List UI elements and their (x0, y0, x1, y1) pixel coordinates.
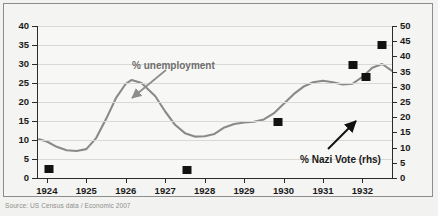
y-axis-label-left: 30 (18, 59, 29, 69)
x-axis-label: 1927 (155, 186, 176, 196)
y-axis-label-right: 0 (400, 173, 405, 183)
x-axis-label: 1926 (115, 186, 136, 196)
x-axis-label: 1924 (36, 186, 57, 196)
nazi-vote-arrow-icon (304, 117, 364, 157)
y-axis-label-right: 25 (400, 97, 411, 107)
y-axis-label-right: 20 (400, 112, 411, 122)
y-axis-label-left: 5 (24, 154, 29, 164)
x-axis-label: 1928 (194, 186, 215, 196)
y-axis-label-right: 30 (400, 82, 411, 92)
gridline (37, 102, 392, 103)
x-axis-label: 1930 (273, 186, 294, 196)
nazi-vote-marker (348, 61, 357, 69)
y-axis-tick-right (392, 178, 397, 179)
gridline (37, 83, 392, 84)
y-axis-label-left: 40 (18, 21, 29, 31)
y-axis-label-right: 35 (400, 67, 411, 77)
y-axis-label-right: 15 (400, 127, 411, 137)
x-axis-spine (37, 178, 392, 179)
y-axis-label-right: 50 (400, 21, 411, 31)
y-axis-label-left: 20 (18, 97, 29, 107)
nazi-vote-marker (273, 118, 282, 126)
y-axis-right-spine (392, 26, 393, 178)
x-axis-label: 1931 (312, 186, 333, 196)
chart-figure: 0510152025303540051015202530354045501924… (0, 0, 438, 216)
y-axis-label-left: 10 (18, 135, 29, 145)
y-axis-label-right: 10 (400, 143, 411, 153)
source-note: Source: US Census data / Economic 2007 (5, 202, 131, 209)
y-axis-label-left: 25 (18, 78, 29, 88)
y-axis-label-right: 45 (400, 36, 411, 46)
y-axis-label-left: 0 (24, 173, 29, 183)
y-axis-label-left: 35 (18, 40, 29, 50)
y-axis-label-left: 15 (18, 116, 29, 126)
gridline (37, 45, 392, 46)
x-axis-label: 1932 (352, 186, 373, 196)
nazi-vote-marker (44, 165, 53, 173)
y-axis-left-spine (37, 26, 38, 178)
y-axis-label-right: 5 (400, 158, 405, 168)
chart-frame: 0510152025303540051015202530354045501924… (3, 3, 433, 197)
x-axis-label: 1929 (234, 186, 255, 196)
y-axis-label-right: 40 (400, 51, 411, 61)
gridline (37, 26, 392, 27)
unemployment-arrow-icon (122, 68, 182, 112)
x-axis-label: 1925 (76, 186, 97, 196)
nazi-vote-marker (182, 166, 191, 174)
nazi-vote-marker (378, 41, 387, 49)
nazi-vote-marker (362, 73, 371, 81)
